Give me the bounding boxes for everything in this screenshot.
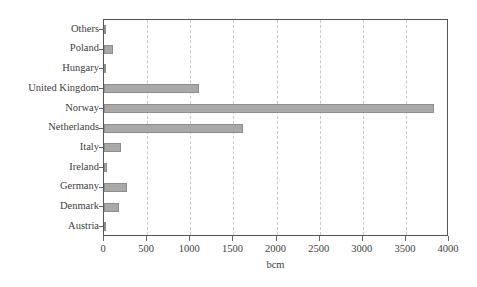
- x-axis-label-2500: 2500: [308, 243, 329, 254]
- bar-netherlands: [104, 124, 243, 133]
- bar-germany: [104, 183, 127, 192]
- x-axis-label-500: 500: [138, 243, 154, 254]
- x-axis-label-1000: 1000: [179, 243, 200, 254]
- x-axis-tick-3500: [405, 236, 406, 241]
- y-axis-label-hungary: Hungary: [0, 63, 99, 74]
- bar-ireland: [104, 163, 107, 172]
- x-axis-label-2000: 2000: [265, 243, 286, 254]
- bar-denmark: [104, 203, 119, 212]
- y-axis-label-norway: Norway: [0, 103, 99, 114]
- y-axis-label-poland: Poland: [0, 43, 99, 54]
- x-axis-tick-2500: [319, 236, 320, 241]
- bar-row: [104, 59, 447, 79]
- x-axis-label-1500: 1500: [222, 243, 243, 254]
- bar-row: [104, 40, 447, 60]
- x-axis-label-3000: 3000: [351, 243, 372, 254]
- bar-italy: [104, 143, 121, 152]
- bar-row: [104, 198, 447, 218]
- plot-area: [103, 19, 448, 236]
- x-axis-tick-2000: [276, 236, 277, 241]
- y-axis-label-austria: Austria: [0, 221, 99, 232]
- bar-row: [104, 99, 447, 119]
- y-axis: AustriaDenmarkGermanyIrelandItalyNetherl…: [0, 19, 99, 236]
- bar-poland: [104, 45, 113, 54]
- bar-row: [104, 158, 447, 178]
- bar-row: [104, 138, 447, 158]
- bar-chart-figure: AustriaDenmarkGermanyIrelandItalyNetherl…: [0, 0, 477, 287]
- x-axis-tick-0: [103, 236, 104, 241]
- bar-row: [104, 178, 447, 198]
- y-axis-label-united-kingdom: United Kingdom: [0, 83, 99, 94]
- x-axis-tick-1000: [189, 236, 190, 241]
- y-axis-label-netherlands: Netherlands: [0, 122, 99, 133]
- bar-row: [104, 79, 447, 99]
- bar-row: [104, 119, 447, 139]
- x-axis-tick-3000: [362, 236, 363, 241]
- bar-norway: [104, 104, 434, 113]
- y-axis-label-denmark: Denmark: [0, 201, 99, 212]
- x-axis-label-4000: 4000: [438, 243, 459, 254]
- y-axis-label-germany: Germany: [0, 181, 99, 192]
- x-axis-tick-1500: [232, 236, 233, 241]
- x-axis-title: bcm: [103, 259, 448, 270]
- x-axis-label-0: 0: [100, 243, 105, 254]
- y-axis-label-ireland: Ireland: [0, 162, 99, 173]
- bar-austria: [104, 222, 106, 231]
- bar-others: [104, 25, 106, 34]
- y-axis-label-italy: Italy: [0, 142, 99, 153]
- bar-row: [104, 217, 447, 237]
- y-axis-label-others: Others: [0, 24, 99, 35]
- bar-series: [104, 20, 447, 235]
- bar-row: [104, 20, 447, 40]
- bar-hungary: [104, 64, 106, 73]
- x-axis-tick-500: [146, 236, 147, 241]
- x-axis-tick-4000: [448, 236, 449, 241]
- bar-united-kingdom: [104, 84, 199, 93]
- x-axis-label-3500: 3500: [394, 243, 415, 254]
